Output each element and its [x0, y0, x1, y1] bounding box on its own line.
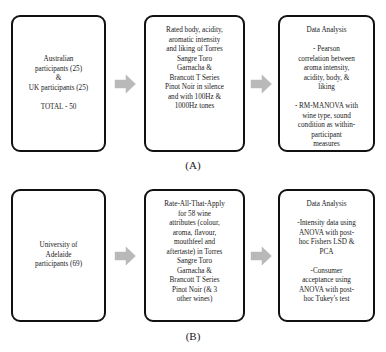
- panel-b-arrow-1: [113, 244, 137, 268]
- panel-a-arrow-1: [113, 72, 137, 96]
- panel-b-task-text: Rate-All-That-Apply for 58 wine attribut…: [148, 200, 241, 305]
- panel-a-participants-text: Australian participants (25) & UK partic…: [15, 55, 102, 112]
- panel-b-analysis-text: Data Analysis -Intensity data using ANOV…: [282, 200, 371, 305]
- panel-b-participants-box: University of Adelaide participants (69): [11, 189, 106, 322]
- panel-a-arrow-2: [249, 72, 273, 96]
- panel-b-analysis-box: Data Analysis -Intensity data using ANOV…: [278, 189, 375, 322]
- figure-canvas: Australian participants (25) & UK partic…: [0, 0, 386, 352]
- panel-a-task-text: Rated body, acidity, aromatic intensity …: [148, 26, 241, 112]
- panel-a-analysis-text: Data Analysis - Pearson correlation betw…: [282, 26, 371, 150]
- panel-b-participants-text: University of Adelaide participants (69): [15, 241, 102, 270]
- panel-b-task-box: Rate-All-That-Apply for 58 wine attribut…: [144, 189, 245, 322]
- panel-a-analysis-box: Data Analysis - Pearson correlation betw…: [278, 15, 375, 152]
- panel-a-label: (A): [0, 160, 386, 171]
- panel-a-task-box: Rated body, acidity, aromatic intensity …: [144, 15, 245, 152]
- panel-a: Australian participants (25) & UK partic…: [0, 0, 386, 176]
- panel-b-arrow-2: [249, 244, 273, 268]
- panel-b: University of Adelaide participants (69)…: [0, 176, 386, 352]
- panel-a-participants-box: Australian participants (25) & UK partic…: [11, 15, 106, 152]
- panel-b-label: (B): [0, 331, 386, 342]
